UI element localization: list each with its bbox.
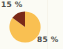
pie-label-15-percent: 15 % <box>1 1 22 9</box>
pie-chart-figure: 15 % 85 % <box>0 0 63 49</box>
pie-label-85-percent: 85 % <box>37 36 58 44</box>
